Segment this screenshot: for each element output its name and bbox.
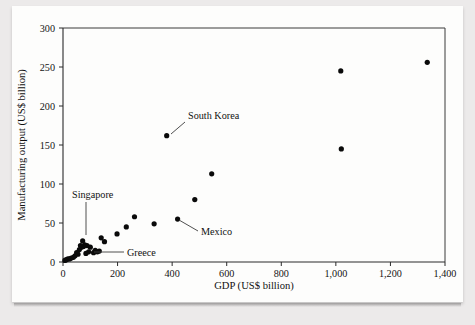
x-tick-label: 0: [60, 268, 65, 279]
y-tick-label: 100: [40, 179, 55, 190]
plot-frame: [63, 28, 445, 262]
data-point: [132, 214, 137, 219]
data-point: [425, 60, 430, 65]
data-point: [152, 221, 157, 226]
data-point: [175, 217, 180, 222]
annotation-label-mexico: Mexico: [201, 226, 232, 237]
y-tick-label: 300: [40, 23, 55, 34]
data-point: [99, 235, 104, 240]
data-point: [338, 68, 343, 73]
data-point: [114, 231, 119, 236]
data-point: [80, 238, 85, 243]
annotation-leader-south-korea: [171, 122, 185, 134]
data-point: [83, 251, 88, 256]
y-tick-label: 200: [40, 101, 55, 112]
data-point: [91, 250, 96, 255]
y-tick-label: 50: [45, 218, 55, 229]
data-point: [339, 146, 344, 151]
y-axis-title: Manufacturing output (US$ billion): [16, 69, 28, 221]
y-axis-ticks: 050100150200250300: [40, 23, 63, 268]
page-background: 050100150200250300 02004006008001,0001,2…: [0, 0, 475, 325]
x-tick-label: 1,200: [379, 268, 402, 279]
data-point: [62, 258, 67, 263]
annotation-label-greece: Greece: [127, 247, 156, 258]
x-tick-label: 800: [274, 268, 289, 279]
data-point: [209, 171, 214, 176]
y-tick-label: 250: [40, 62, 55, 73]
x-tick-label: 1,000: [324, 268, 347, 279]
data-points: [62, 60, 430, 263]
x-axis-title: GDP (US$ billion): [214, 280, 294, 292]
data-point: [192, 197, 197, 202]
data-point: [164, 133, 169, 138]
annotations: South KoreaMexicoSingaporeGreece: [72, 110, 240, 258]
x-tick-label: 400: [165, 268, 180, 279]
y-tick-label: 150: [40, 140, 55, 151]
scatter-chart: 050100150200250300 02004006008001,0001,2…: [0, 0, 475, 325]
x-tick-label: 600: [219, 268, 234, 279]
annotation-leader-mexico: [179, 220, 198, 231]
data-point: [124, 224, 129, 229]
x-axis-ticks: 02004006008001,0001,2001,400: [60, 262, 456, 279]
annotation-label-south-korea: South Korea: [188, 110, 240, 121]
x-tick-label: 200: [110, 268, 125, 279]
annotation-label-singapore: Singapore: [72, 189, 114, 200]
y-tick-label: 0: [50, 257, 55, 268]
x-tick-label: 1,400: [434, 268, 457, 279]
